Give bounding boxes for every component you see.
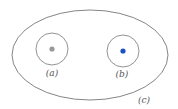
- dot-a-icon: [49, 46, 54, 51]
- diagram-canvas: (a) (b) (c): [0, 0, 178, 109]
- label-b: (b): [116, 69, 129, 79]
- dot-b-icon: [120, 48, 125, 53]
- outer-region-c: [12, 10, 168, 100]
- label-c: (c): [138, 95, 151, 105]
- label-a: (a): [46, 68, 59, 78]
